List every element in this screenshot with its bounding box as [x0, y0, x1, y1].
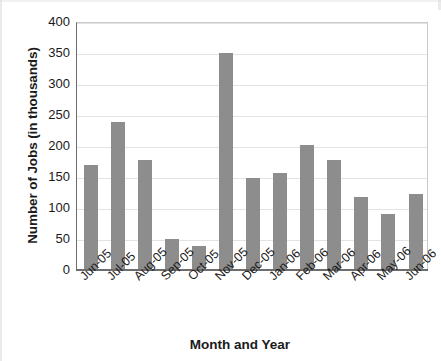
y-tick-label: 400 — [30, 15, 70, 28]
y-axis-tick-labels: 050100150200250300350400 — [26, 0, 70, 300]
gridline — [77, 147, 427, 148]
y-tick-label: 150 — [30, 170, 70, 183]
y-tick-label: 350 — [30, 46, 70, 59]
y-tick-label: 0 — [30, 263, 70, 276]
y-tick-label: 300 — [30, 77, 70, 90]
scan-artifact-left — [0, 0, 2, 361]
gridline — [77, 85, 427, 86]
gridline — [77, 116, 427, 117]
x-axis-title: Month and Year — [60, 337, 420, 352]
y-tick-label: 50 — [30, 232, 70, 245]
gridline — [77, 54, 427, 55]
y-tick-label: 250 — [30, 108, 70, 121]
bar-chart-figure: Number of Jobs (in thousands) 0501001502… — [0, 0, 441, 361]
y-tick-label: 200 — [30, 139, 70, 152]
gridline — [77, 23, 427, 24]
y-tick-label: 100 — [30, 201, 70, 214]
